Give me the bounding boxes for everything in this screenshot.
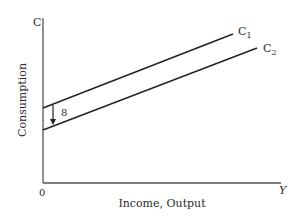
y-axis-title: Consumption xyxy=(16,63,29,137)
x-axis-end-label: Y xyxy=(279,184,288,197)
x-axis-title: Income, Output xyxy=(118,197,206,210)
c1-label: C1 xyxy=(238,25,252,40)
line-c2 xyxy=(43,48,257,130)
origin-label: 0 xyxy=(39,187,45,198)
c2-label: C2 xyxy=(263,42,277,57)
down-arrow-icon xyxy=(50,105,56,125)
line-c1 xyxy=(43,34,233,108)
y-axis-end-label: C xyxy=(33,16,41,29)
shift-label: 8 xyxy=(61,107,67,118)
consumption-diagram: 8 C1 C2 C Y 0 Income, Output Consumption xyxy=(0,0,301,220)
